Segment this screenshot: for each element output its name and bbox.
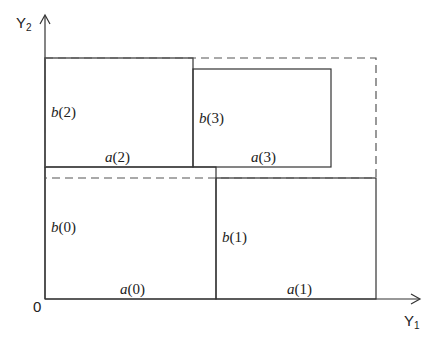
label-a1: a(1)	[287, 281, 312, 298]
label-a3: a(3)	[251, 149, 276, 166]
label-a2: a(2)	[105, 149, 130, 166]
origin-label: 0	[33, 298, 41, 315]
rectangle-packing-diagram: Y2 Y1 0 b(0) a(0) b(1) a(1) b(2) a(2) b(…	[0, 0, 440, 338]
label-a0: a(0)	[120, 281, 145, 298]
x-axis-label: Y1	[404, 312, 420, 331]
label-b2: b(2)	[51, 104, 76, 121]
y-axis-label: Y2	[16, 14, 32, 33]
label-b3: b(3)	[199, 110, 224, 127]
label-b1: b(1)	[222, 229, 247, 246]
label-b0: b(0)	[51, 219, 76, 236]
